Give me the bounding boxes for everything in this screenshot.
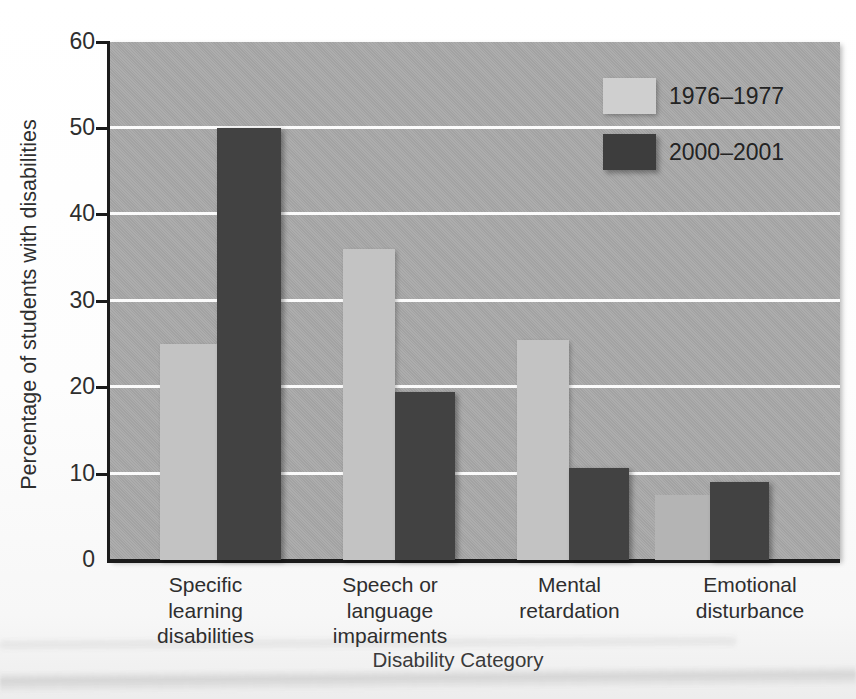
category-line-2: learning [118,598,293,624]
legend-label-2000: 2000–2001 [669,137,784,167]
category-label-speech-or-language-impairments: Speech or language impairments [295,572,485,649]
category-line-2: disturbance [655,598,845,624]
category-line-2: language [295,598,485,624]
light-gray-swatch-icon [603,78,656,114]
category-label-specific-learning-disabilities: Specific learning disabilities [118,572,293,649]
bar-1976-speech-or-language-impairments [343,249,395,560]
category-label-emotional-disturbance: Emotional disturbance [655,572,845,623]
x-axis-title: Disability Category [0,648,856,672]
bar-2000-mental-retardation [569,468,629,560]
bar-2000-emotional-disturbance [710,482,769,560]
bar-chart: 1976–1977 2000–2001 60 50 40 30 20 10 0 [0,0,856,699]
legend-label-1976: 1976–1977 [669,81,784,111]
bar-1976-emotional-disturbance [655,495,710,560]
dark-gray-swatch-icon [603,134,656,170]
category-line-3: impairments [295,623,485,649]
category-label-mental-retardation: Mental retardation [482,572,657,623]
plot-area: 1976–1977 2000–2001 [110,42,840,560]
category-line-1: Mental [482,572,657,598]
category-line-2: retardation [482,598,657,624]
category-line-3: disabilities [118,623,293,649]
bar-1976-mental-retardation [517,340,569,560]
bar-2000-speech-or-language-impairments [395,392,455,560]
bar-2000-specific-learning-disabilities [217,128,281,560]
category-line-1: Specific [118,572,293,598]
y-axis-title: Percentage of students with disabilities [17,95,42,515]
category-line-1: Emotional [655,572,845,598]
category-line-1: Speech or [295,572,485,598]
bar-1976-specific-learning-disabilities [160,344,217,560]
